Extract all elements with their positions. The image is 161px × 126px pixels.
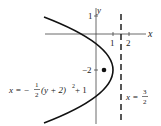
focus-point	[102, 68, 107, 73]
svg-text:x =: x =	[125, 92, 138, 102]
y-tick-label-1: 1	[88, 11, 93, 21]
y-axis-label: y	[96, 5, 101, 15]
svg-text:x = −: x = −	[8, 85, 30, 95]
svg-text:+ 1: + 1	[75, 85, 87, 95]
x-axis-label: x	[147, 28, 153, 39]
directrix-equation: x = 3 2	[125, 88, 148, 106]
svg-text:2: 2	[35, 91, 39, 99]
x-tick-label-1: 1	[110, 38, 115, 48]
parabola-diagram: x y 1 2 1 −2 x = − 1 2 (y + 2) 2 + 1 x =…	[0, 0, 161, 126]
svg-text:(y + 2): (y + 2)	[41, 85, 66, 95]
y-tick-label-neg2: −2	[82, 65, 92, 75]
parabola-equation: x = − 1 2 (y + 2) 2 + 1	[8, 81, 87, 99]
svg-text:3: 3	[143, 88, 147, 96]
x-tick-label-2: 2	[126, 38, 131, 48]
svg-text:1: 1	[35, 81, 39, 89]
svg-text:2: 2	[143, 98, 147, 106]
